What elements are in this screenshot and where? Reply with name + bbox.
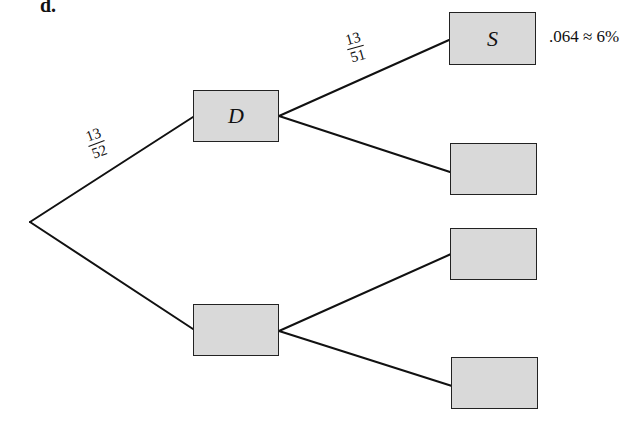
tree-node-notD_bottom xyxy=(451,357,538,409)
tree-branch xyxy=(30,222,193,329)
tree-node-D: D xyxy=(193,90,279,142)
result-probability: .064 ≈ 6% xyxy=(549,27,619,47)
tree-branch xyxy=(30,117,193,222)
tree-node-D_other xyxy=(450,143,537,195)
tree-branch xyxy=(279,331,452,386)
tree-node-label: D xyxy=(228,103,244,129)
tree-node-label: S xyxy=(487,26,498,52)
tree-node-notD xyxy=(193,304,279,356)
tree-branch xyxy=(279,254,451,331)
tree-node-notD_top xyxy=(450,228,537,280)
tree-branches xyxy=(0,0,642,423)
tree-node-S: S xyxy=(449,12,536,65)
tree-branch xyxy=(279,116,450,172)
